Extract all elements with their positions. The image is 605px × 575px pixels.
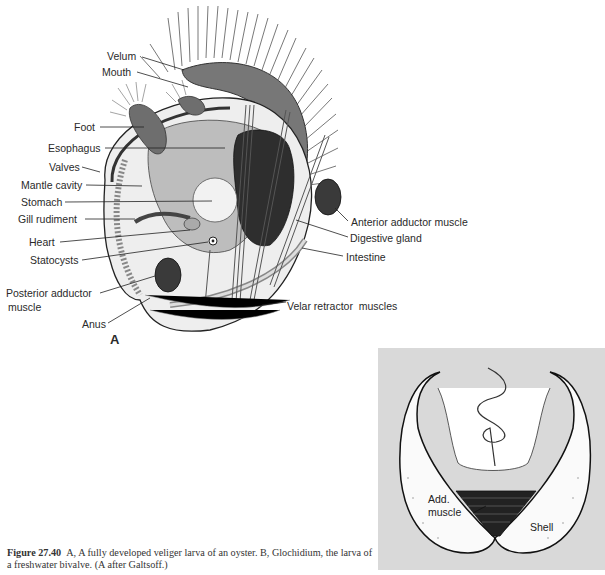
label-add-muscle: Add. [428,493,450,505]
glochidium-drawing [378,348,605,570]
label-heart: Heart [29,236,55,248]
glochidium-panel: Add. muscle Shell [378,348,605,570]
label-valves: Valves [49,161,80,173]
label-anterior-adductor: Anterior adductor muscle [351,216,468,228]
label-add-muscle-2: muscle [428,506,461,518]
label-intestine: Intestine [346,251,386,263]
label-posterior-adductor: Posterior adductor [6,287,92,299]
label-mantle-cavity: Mantle cavity [21,179,82,191]
label-velum: Velum [107,50,136,62]
label-velar-retractor: Velar retractor muscles [287,300,397,312]
label-esophagus: Esophagus [48,142,101,154]
label-gill-rudiment: Gill rudiment [18,213,77,225]
posterior-adductor [155,258,181,292]
label-foot: Foot [74,121,95,133]
label-shell: Shell [530,521,553,533]
figure-caption: Figure 27.40 A, A fully developed velige… [7,547,377,570]
figure-number: Figure 27.40 [7,547,61,558]
label-anus: Anus [82,318,106,330]
label-stomach: Stomach [21,196,62,208]
label-statocysts: Statocysts [30,254,78,266]
label-digestive-gland: Digestive gland [350,232,422,244]
label-posterior-adductor-2: muscle [8,301,41,313]
stomach [193,178,237,222]
caption-text: A, A fully developed veliger larva of an… [7,547,372,570]
panel-a-letter: A [110,334,119,346]
label-mouth: Mouth [102,66,131,78]
